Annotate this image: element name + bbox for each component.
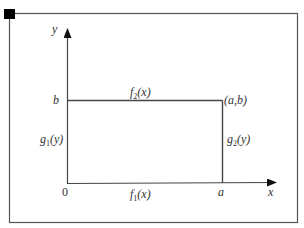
- origin-label: 0: [62, 185, 68, 199]
- outer-frame: [10, 14, 298, 223]
- corner-marker-square: [4, 9, 15, 19]
- corner-ab-label: (a,b): [224, 93, 247, 107]
- y-axis-label: y: [51, 22, 58, 36]
- diagram-canvas: y x b 0 a (a,b) f2(x) f1(x) g1(y) g2(y): [0, 0, 304, 228]
- a-label: a: [218, 185, 224, 199]
- top-edge-label: f2(x): [130, 85, 151, 101]
- x-axis-label: x: [267, 185, 274, 199]
- left-edge-label: g1(y): [40, 132, 63, 148]
- b-label: b: [53, 93, 59, 107]
- bottom-edge-label: f1(x): [130, 187, 151, 203]
- x-axis: [67, 183, 276, 184]
- right-edge-label: g2(y): [227, 132, 250, 148]
